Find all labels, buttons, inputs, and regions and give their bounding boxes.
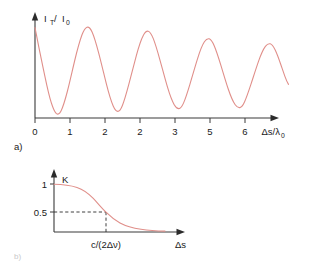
panel-b: 1 0.5 K c/(2Δν) Δs: [34, 169, 186, 250]
panel-a-y-axis-arrowhead: [32, 12, 38, 21]
panel-a-tick-label-4: 3: [172, 126, 177, 137]
panel-b-y-axis-label: K: [62, 174, 69, 185]
panel-a-ylabel-slash: /: [54, 13, 57, 24]
panel-b-ytick-label-0p5: 0.5: [34, 207, 47, 218]
panel-a-x-axis-arrowhead: [271, 115, 280, 121]
panel-a-ylabel-denominator: I: [62, 13, 65, 24]
panel-a-ylabel-denominator-sub: 0: [66, 19, 70, 26]
panel-b-y-axis-arrowhead: [51, 169, 57, 178]
panel-b-ytick-label-1: 1: [42, 179, 47, 190]
figure-svg: 0 1 2 2 3 5 6 I T / I 0 Δs/λ 0 a): [0, 0, 316, 261]
panel-a-tick-label-2: 2: [102, 126, 107, 137]
panel-a-fringe-curve: [35, 27, 289, 114]
panel-b-label: b): [14, 252, 21, 261]
panel-b-coherence-curve: [54, 184, 165, 231]
panel-a-tick-label-6: 6: [242, 126, 247, 137]
panel-a-label: a): [14, 141, 22, 152]
panel-a-ylabel-numerator: I: [44, 13, 47, 24]
panel-a: 0 1 2 2 3 5 6 I T / I 0 Δs/λ 0: [32, 12, 289, 139]
panel-a-tick-label-5: 5: [207, 126, 212, 137]
panel-a-tick-label-0: 0: [32, 126, 37, 137]
panel-b-xtick-label: c/(2Δν): [91, 239, 121, 250]
panel-a-xlabel-main: Δs/λ: [262, 126, 281, 137]
panel-b-x-axis-arrowhead: [177, 229, 186, 235]
panel-a-x-axis-label: Δs/λ 0: [262, 126, 286, 139]
panel-a-y-axis-label: I T / I 0: [44, 13, 70, 26]
panel-a-tick-label-1: 1: [67, 126, 72, 137]
panel-b-x-axis-label: Δs: [175, 239, 186, 250]
panel-a-xlabel-sub: 0: [281, 132, 285, 139]
figure-container: 0 1 2 2 3 5 6 I T / I 0 Δs/λ 0 a): [0, 0, 316, 261]
panel-a-tick-label-3: 2: [137, 126, 142, 137]
